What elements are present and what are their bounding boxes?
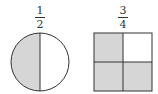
fraction-diagram [0, 0, 158, 94]
shaded-top-left [94, 33, 123, 62]
square-three-quarters-shaded [94, 33, 152, 91]
shaded-half [11, 33, 40, 91]
shaded-bottom-right [123, 62, 152, 91]
circle-half-shaded [11, 33, 69, 91]
shaded-bottom-left [94, 62, 123, 91]
